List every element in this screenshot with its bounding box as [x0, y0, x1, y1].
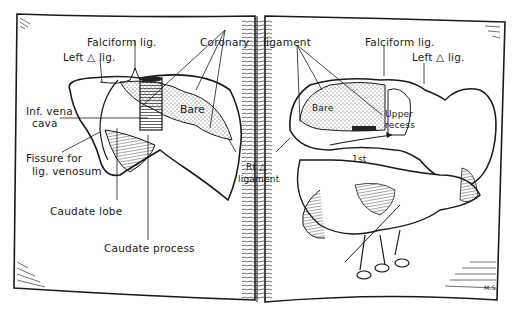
- label-first-part: 1st: [352, 155, 367, 164]
- label-left-triangular-left: Left △ lig.: [63, 52, 116, 63]
- label-bare-left: Bare: [180, 104, 205, 115]
- label-falciform-left: Falciform lig.: [87, 37, 157, 48]
- label-bare-right: Bare: [312, 104, 334, 113]
- label-ivc-line1: Inf. vena: [26, 106, 73, 117]
- label-coronary-ligament: ligament: [263, 37, 311, 48]
- book-gutter: [242, 16, 272, 302]
- label-fissure-line1: Fissure for: [26, 153, 82, 164]
- label-upper-line2: recess: [385, 121, 415, 130]
- label-coronary: Coronary: [200, 37, 250, 48]
- open-book-illustration: Falciform lig. Left △ lig. Coronary Inf.…: [0, 0, 521, 309]
- label-caudate-lobe: Caudate lobe: [50, 206, 122, 217]
- label-rt-triangular-line2: ligament: [238, 175, 279, 184]
- label-falciform-right: Falciform lig.: [365, 37, 435, 48]
- artist-signature: M.S.: [484, 285, 498, 291]
- label-upper-line1: Upper: [385, 110, 413, 119]
- label-fissure-line2: lig. venosum: [32, 166, 102, 177]
- label-left-triangular-right: Left △ lig.: [412, 52, 465, 63]
- label-ivc-line2: cava: [32, 118, 58, 129]
- label-rt-triangular-line1: Rt △: [246, 163, 266, 172]
- label-caudate-process: Caudate process: [104, 243, 195, 254]
